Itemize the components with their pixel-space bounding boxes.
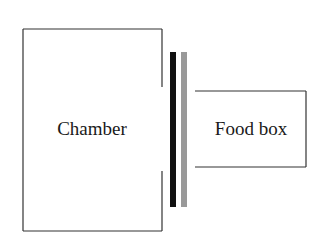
chamber-label: Chamber — [57, 118, 127, 139]
food-box-label: Food box — [215, 118, 288, 139]
gray-barrier — [181, 52, 187, 207]
black-barrier — [170, 52, 176, 207]
diagram-canvas: Chamber Food box — [0, 0, 321, 247]
